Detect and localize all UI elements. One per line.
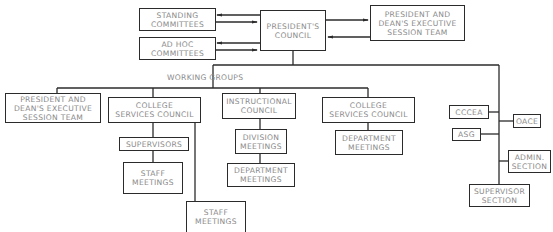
department-meetings-1-line1: DEPARTMENT bbox=[234, 166, 288, 175]
presidents-council-line2: COUNCIL bbox=[275, 31, 311, 40]
standing-committees-line2: COMMITTEES bbox=[151, 20, 204, 29]
pdest-top-line1: PRESIDENT AND bbox=[385, 10, 451, 19]
staff-meetings-1-line1: STAFF bbox=[141, 169, 165, 178]
supervisors-line1: SUPERVISORS bbox=[126, 140, 182, 149]
oace-box: OACE bbox=[513, 114, 541, 128]
supervisor-section-line2: SECTION bbox=[482, 196, 518, 205]
division-meetings-box: DIVISION MEETINGS bbox=[235, 129, 287, 154]
working-groups-text: WORKING GROUPS bbox=[167, 73, 243, 82]
ad-hoc-committees-line2: COMMITTEES bbox=[151, 49, 204, 58]
asg-box: ASG bbox=[452, 128, 481, 141]
staff-meetings-2-line2: MEETINGS bbox=[195, 217, 237, 226]
standing-committees-line1: STANDING bbox=[157, 11, 199, 20]
presidents-council-box: PRESIDENT'S COUNCIL bbox=[260, 10, 326, 51]
college-services-council-2-box: COLLEGE SERVICES COUNCIL bbox=[322, 97, 415, 123]
department-meetings-2-box: DEPARTMENT MEETINGS bbox=[335, 130, 403, 155]
college-services-council-1-box: COLLEGE SERVICES COUNCIL bbox=[108, 97, 201, 123]
working-groups-label: WORKING GROUPS bbox=[167, 73, 243, 82]
cccea-line1: CCCEA bbox=[455, 108, 482, 117]
department-meetings-1-box: DEPARTMENT MEETINGS bbox=[227, 163, 295, 187]
staff-meetings-1-line2: MEETINGS bbox=[132, 178, 174, 187]
staff-meetings-2-line1: STAFF bbox=[204, 208, 228, 217]
supervisor-section-line1: SUPERVISOR bbox=[474, 187, 525, 196]
division-meetings-line1: DIVISION bbox=[243, 133, 280, 142]
staff-meetings-2-box: STAFF MEETINGS bbox=[186, 201, 246, 232]
department-meetings-2-line1: DEPARTMENT bbox=[342, 134, 396, 143]
department-meetings-2-line2: MEETINGS bbox=[348, 143, 390, 152]
ad-hoc-committees-line1: AD HOC bbox=[161, 40, 193, 49]
csc2-line2: SERVICES COUNCIL bbox=[329, 110, 407, 119]
instructional-council-line1: INSTRUCTIONAL bbox=[226, 97, 291, 106]
asg-line1: ASG bbox=[458, 130, 475, 139]
department-meetings-1-line2: MEETINGS bbox=[240, 175, 282, 184]
presidents-council-line1: PRESIDENT'S bbox=[267, 22, 320, 31]
standing-committees-box: STANDING COMMITTEES bbox=[139, 8, 216, 31]
admin-section-line2: SECTION bbox=[512, 162, 548, 171]
csc2-line1: COLLEGE bbox=[350, 101, 387, 110]
admin-section-box: ADMIN. SECTION bbox=[508, 150, 551, 173]
oace-line1: OACE bbox=[516, 117, 538, 126]
supervisor-section-box: SUPERVISOR SECTION bbox=[469, 184, 530, 207]
csc1-line2: SERVICES COUNCIL bbox=[115, 110, 193, 119]
admin-section-line1: ADMIN. bbox=[515, 153, 545, 162]
org-chart: STANDING COMMITTEES AD HOC COMMITTEES PR… bbox=[0, 0, 553, 232]
pdest-top-line2: DEAN'S EXECUTIVE bbox=[378, 19, 456, 28]
pdest-left-box: PRESIDENT AND DEAN'S EXECUTIVE SESSION T… bbox=[5, 93, 101, 123]
pdest-top-box: PRESIDENT AND DEAN'S EXECUTIVE SESSION T… bbox=[370, 5, 465, 41]
staff-meetings-1-box: STAFF MEETINGS bbox=[123, 162, 183, 194]
pdest-top-line3: SESSION TEAM bbox=[387, 28, 447, 37]
supervisors-box: SUPERVISORS bbox=[119, 137, 189, 151]
instructional-council-box: INSTRUCTIONAL COUNCIL bbox=[222, 93, 296, 119]
pdest-left-line2: DEAN'S EXECUTIVE bbox=[14, 104, 92, 113]
csc1-line1: COLLEGE bbox=[136, 101, 173, 110]
division-meetings-line2: MEETINGS bbox=[240, 142, 282, 151]
instructional-council-line2: COUNCIL bbox=[241, 106, 277, 115]
pdest-left-line3: SESSION TEAM bbox=[23, 113, 83, 122]
ad-hoc-committees-box: AD HOC COMMITTEES bbox=[139, 37, 216, 60]
cccea-box: CCCEA bbox=[449, 105, 489, 119]
pdest-left-line1: PRESIDENT AND bbox=[20, 95, 86, 104]
